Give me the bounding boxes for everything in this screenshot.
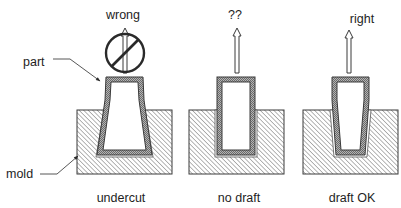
caption-no-draft: no draft — [218, 191, 261, 205]
leader-line-mold — [40, 156, 78, 174]
panel-no-draft: ?? no draft — [189, 8, 284, 205]
panel-draft-ok: right draft OK — [303, 12, 398, 205]
hollow-up-arrow-icon — [233, 28, 241, 73]
hollow-up-arrow-icon — [345, 30, 353, 73]
caption-undercut: undercut — [97, 191, 146, 205]
part-interior — [337, 82, 364, 150]
prohibited-icon — [106, 28, 144, 73]
part-interior — [222, 82, 250, 150]
annotation-wrong: wrong — [105, 8, 140, 22]
label-part: part — [23, 55, 45, 69]
caption-draft-ok: draft OK — [329, 191, 376, 205]
leader-line-part — [53, 59, 100, 81]
callout-part: part — [23, 55, 100, 81]
annotation-unknown: ?? — [228, 8, 242, 22]
label-mold: mold — [6, 167, 33, 181]
panel-undercut: wrong undercut — [77, 8, 172, 205]
draft-angle-diagram: wrong undercut part mold ?? no draft rig… — [0, 0, 401, 208]
annotation-right: right — [350, 12, 375, 26]
callout-mold: mold — [6, 156, 78, 181]
